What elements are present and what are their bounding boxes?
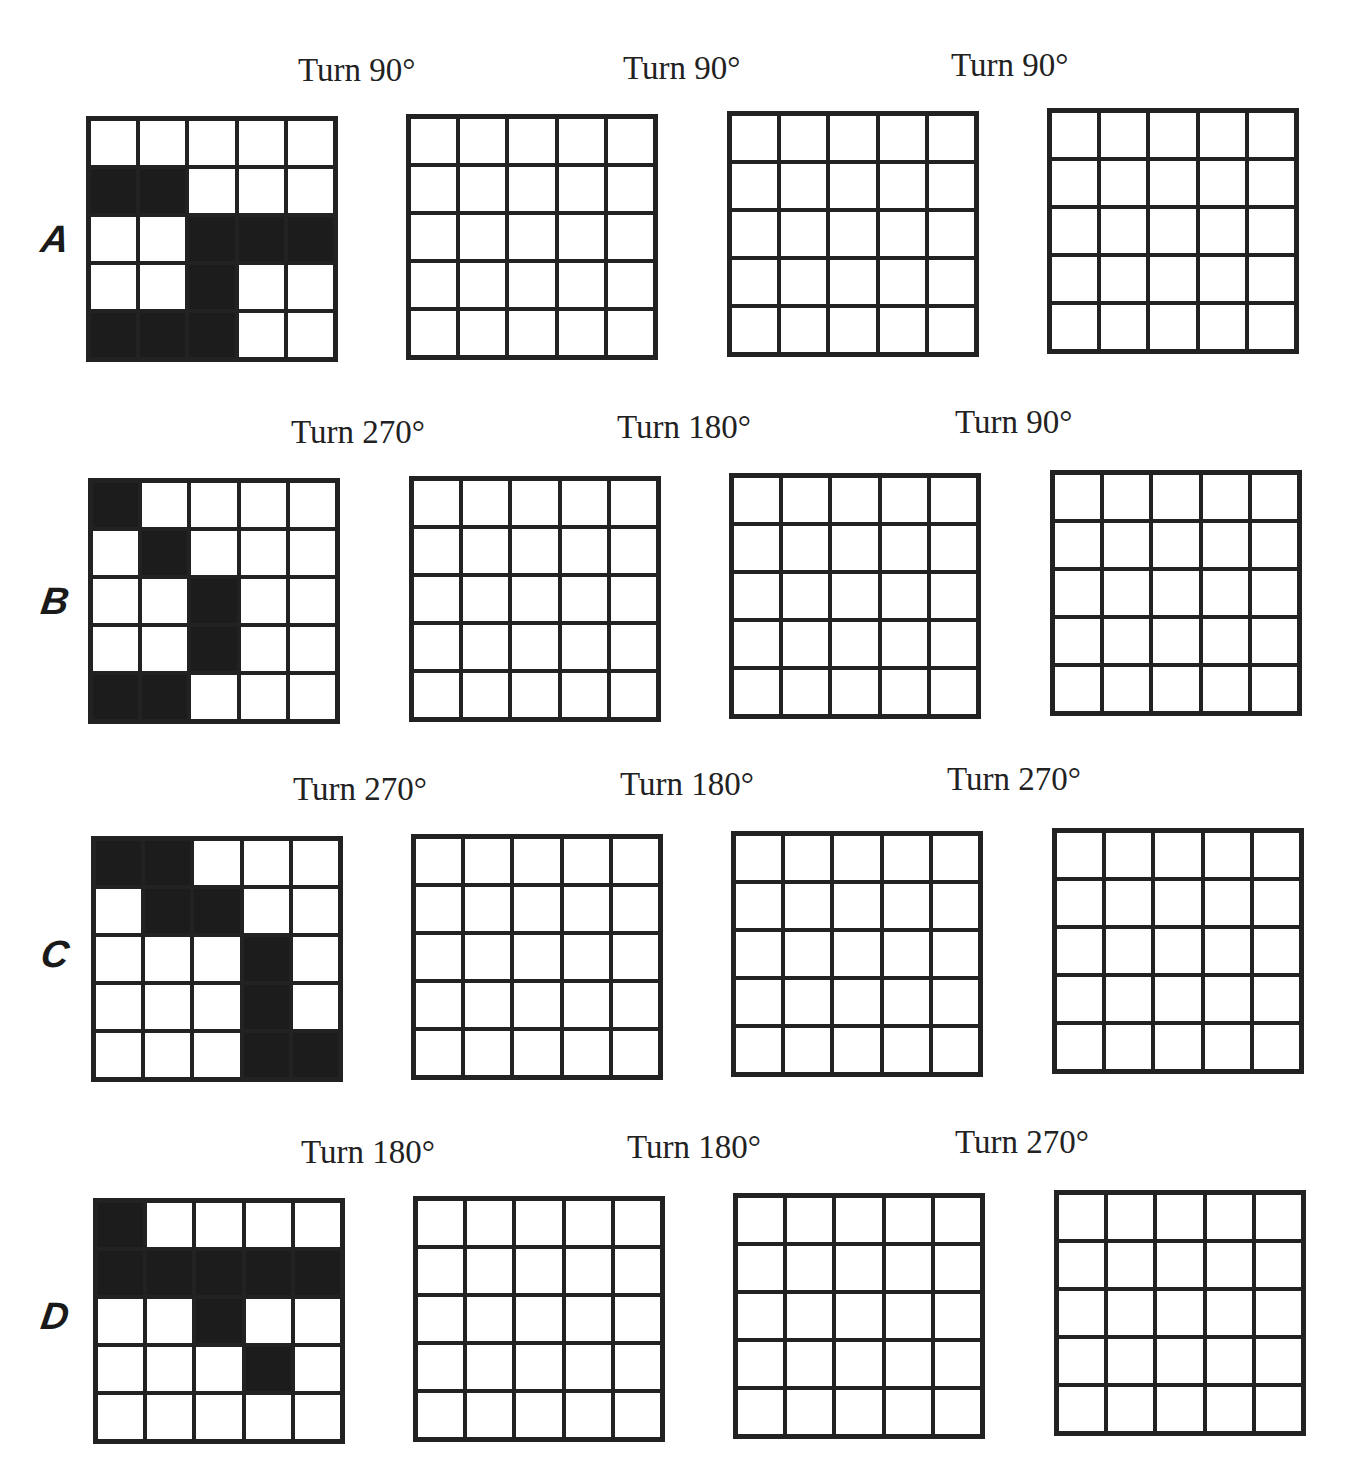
- empty-cell[interactable]: [738, 1390, 783, 1434]
- empty-cell[interactable]: [931, 574, 976, 618]
- empty-cell[interactable]: [514, 839, 559, 883]
- empty-cell[interactable]: [834, 932, 879, 976]
- empty-cell[interactable]: [783, 574, 828, 618]
- empty-cell[interactable]: [562, 529, 607, 573]
- empty-cell[interactable]: [1106, 1025, 1151, 1069]
- empty-cell[interactable]: [886, 1246, 931, 1290]
- empty-cell[interactable]: [514, 887, 559, 931]
- empty-cell[interactable]: [1256, 1195, 1301, 1239]
- empty-cell[interactable]: [933, 932, 978, 976]
- empty-cell[interactable]: [416, 887, 461, 931]
- empty-cell[interactable]: [418, 1393, 463, 1437]
- empty-cell[interactable]: [613, 935, 658, 979]
- empty-cell[interactable]: [884, 932, 929, 976]
- empty-cell[interactable]: [836, 1342, 881, 1386]
- answer-grid[interactable]: [1050, 470, 1302, 716]
- empty-cell[interactable]: [886, 1294, 931, 1338]
- empty-cell[interactable]: [463, 481, 508, 525]
- empty-cell[interactable]: [836, 1390, 881, 1434]
- empty-cell[interactable]: [1108, 1195, 1153, 1239]
- empty-cell[interactable]: [882, 574, 927, 618]
- empty-cell[interactable]: [935, 1342, 980, 1386]
- empty-cell[interactable]: [1055, 571, 1100, 615]
- empty-cell[interactable]: [1205, 833, 1250, 877]
- empty-cell[interactable]: [1203, 667, 1248, 711]
- empty-cell[interactable]: [1252, 523, 1297, 567]
- empty-cell[interactable]: [1104, 667, 1149, 711]
- empty-cell[interactable]: [516, 1393, 561, 1437]
- empty-cell[interactable]: [834, 980, 879, 1024]
- answer-grid[interactable]: [1054, 1190, 1306, 1436]
- empty-cell[interactable]: [611, 529, 656, 573]
- empty-cell[interactable]: [615, 1249, 660, 1293]
- empty-cell[interactable]: [785, 884, 830, 928]
- empty-cell[interactable]: [514, 1031, 559, 1075]
- empty-cell[interactable]: [1059, 1195, 1104, 1239]
- empty-cell[interactable]: [566, 1345, 611, 1389]
- empty-cell[interactable]: [832, 526, 877, 570]
- empty-cell[interactable]: [884, 884, 929, 928]
- empty-cell[interactable]: [1059, 1243, 1104, 1287]
- empty-cell[interactable]: [512, 577, 557, 621]
- empty-cell[interactable]: [734, 526, 779, 570]
- empty-cell[interactable]: [615, 1201, 660, 1245]
- empty-cell[interactable]: [1155, 929, 1200, 973]
- empty-cell[interactable]: [566, 1393, 611, 1437]
- empty-cell[interactable]: [933, 836, 978, 880]
- empty-cell[interactable]: [611, 481, 656, 525]
- empty-cell[interactable]: [416, 839, 461, 883]
- empty-cell[interactable]: [414, 529, 459, 573]
- empty-cell[interactable]: [933, 1028, 978, 1072]
- empty-cell[interactable]: [1256, 1387, 1301, 1431]
- empty-cell[interactable]: [1207, 1291, 1252, 1335]
- empty-cell[interactable]: [613, 887, 658, 931]
- empty-cell[interactable]: [418, 1345, 463, 1389]
- empty-cell[interactable]: [935, 1198, 980, 1242]
- empty-cell[interactable]: [564, 839, 609, 883]
- empty-cell[interactable]: [1256, 1339, 1301, 1383]
- empty-cell[interactable]: [1059, 1387, 1104, 1431]
- empty-cell[interactable]: [1203, 475, 1248, 519]
- empty-cell[interactable]: [785, 1028, 830, 1072]
- empty-cell[interactable]: [564, 935, 609, 979]
- empty-cell[interactable]: [611, 577, 656, 621]
- empty-cell[interactable]: [1254, 977, 1299, 1021]
- empty-cell[interactable]: [1155, 881, 1200, 925]
- empty-cell[interactable]: [1059, 1291, 1104, 1335]
- empty-cell[interactable]: [467, 1201, 512, 1245]
- empty-cell[interactable]: [1104, 475, 1149, 519]
- empty-cell[interactable]: [1205, 1025, 1250, 1069]
- empty-cell[interactable]: [516, 1249, 561, 1293]
- empty-cell[interactable]: [514, 983, 559, 1027]
- empty-cell[interactable]: [1055, 523, 1100, 567]
- empty-cell[interactable]: [465, 935, 510, 979]
- empty-cell[interactable]: [1252, 571, 1297, 615]
- empty-cell[interactable]: [787, 1390, 832, 1434]
- empty-cell[interactable]: [882, 670, 927, 714]
- empty-cell[interactable]: [1205, 929, 1250, 973]
- empty-cell[interactable]: [1106, 833, 1151, 877]
- empty-cell[interactable]: [566, 1249, 611, 1293]
- empty-cell[interactable]: [736, 980, 781, 1024]
- empty-cell[interactable]: [1207, 1339, 1252, 1383]
- empty-cell[interactable]: [935, 1246, 980, 1290]
- answer-grid[interactable]: [413, 1196, 665, 1442]
- empty-cell[interactable]: [613, 839, 658, 883]
- empty-cell[interactable]: [931, 526, 976, 570]
- empty-cell[interactable]: [836, 1294, 881, 1338]
- empty-cell[interactable]: [1055, 475, 1100, 519]
- empty-cell[interactable]: [933, 884, 978, 928]
- empty-cell[interactable]: [463, 577, 508, 621]
- empty-cell[interactable]: [1057, 881, 1102, 925]
- empty-cell[interactable]: [416, 983, 461, 1027]
- empty-cell[interactable]: [615, 1393, 660, 1437]
- empty-cell[interactable]: [416, 1031, 461, 1075]
- empty-cell[interactable]: [463, 673, 508, 717]
- empty-cell[interactable]: [463, 625, 508, 669]
- empty-cell[interactable]: [613, 983, 658, 1027]
- empty-cell[interactable]: [564, 887, 609, 931]
- empty-cell[interactable]: [1157, 1243, 1202, 1287]
- empty-cell[interactable]: [1153, 667, 1198, 711]
- empty-cell[interactable]: [1104, 523, 1149, 567]
- empty-cell[interactable]: [566, 1297, 611, 1341]
